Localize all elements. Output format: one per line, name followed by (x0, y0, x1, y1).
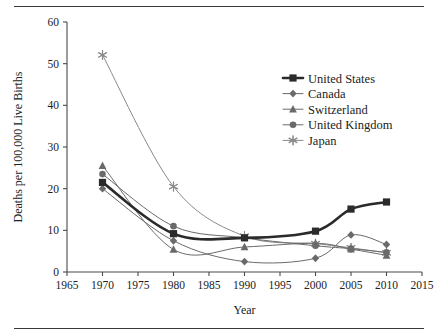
data-point-marker (99, 161, 107, 169)
y-axis: 0102030405060 (48, 16, 68, 278)
x-tick-label: 2010 (375, 279, 398, 291)
y-tick-label: 60 (48, 16, 60, 28)
x-tick-label: 1995 (269, 279, 292, 291)
legend-item-japan[interactable]: Japan (283, 134, 337, 148)
y-tick-label: 50 (48, 58, 60, 70)
figure-container: 0102030405060 19651970197519801985199019… (0, 0, 438, 336)
legend-label: United Kingdom (308, 118, 393, 132)
y-axis-title: Deaths per 100,000 Live Births (11, 71, 25, 222)
x-tick-label: 1980 (162, 279, 185, 291)
legend-label: Japan (308, 134, 337, 148)
legend-item-united-kingdom[interactable]: United Kingdom (283, 118, 393, 132)
y-tick-label: 30 (48, 141, 60, 153)
data-point-marker (347, 231, 354, 239)
data-point-marker (312, 254, 319, 262)
data-point-marker (383, 198, 390, 205)
data-point-marker (170, 237, 177, 245)
data-point-marker (170, 230, 177, 237)
y-tick-label: 10 (48, 224, 60, 236)
data-point-marker (170, 245, 178, 253)
y-tick-label: 20 (48, 183, 60, 195)
y-tick-label: 40 (48, 99, 60, 111)
data-point-marker (383, 241, 390, 249)
chart-legend: United StatesCanadaSwitzerlandUnited Kin… (283, 72, 393, 148)
y-tick-label: 0 (53, 266, 59, 278)
data-point-marker (99, 179, 106, 186)
x-tick-label: 1975 (127, 279, 150, 291)
legend-label: Switzerland (308, 103, 368, 117)
data-point-marker (289, 74, 296, 81)
data-point-marker (98, 50, 106, 60)
line-chart: 0102030405060 19651970197519801985199019… (0, 0, 438, 336)
x-tick-label: 1990 (233, 279, 256, 291)
x-tick-label: 2005 (340, 279, 363, 291)
data-point-marker (241, 258, 248, 266)
data-point-marker (170, 223, 177, 230)
series-canada (99, 185, 390, 266)
x-tick-label: 2015 (411, 279, 434, 291)
x-tick-label: 2000 (304, 279, 327, 291)
x-tick-label: 1965 (56, 279, 79, 291)
data-point-marker (99, 171, 106, 178)
data-point-marker (241, 234, 248, 241)
data-point-marker (347, 205, 354, 212)
x-axis: 1965197019751980198519901995200020052010… (56, 272, 434, 291)
legend-label: United States (308, 72, 375, 86)
legend-label: Canada (308, 87, 346, 101)
data-point-marker (290, 122, 297, 129)
legend-item-canada[interactable]: Canada (283, 87, 346, 101)
x-axis-title: Year (233, 303, 255, 317)
x-tick-label: 1985 (198, 279, 221, 291)
data-point-marker (312, 228, 319, 235)
legend-item-switzerland[interactable]: Switzerland (283, 103, 368, 117)
bottom-horizontal-rule (14, 328, 424, 329)
legend-item-united-states[interactable]: United States (283, 72, 375, 86)
top-horizontal-rule (14, 6, 424, 7)
data-point-marker (289, 90, 296, 98)
x-tick-label: 1970 (91, 279, 114, 291)
